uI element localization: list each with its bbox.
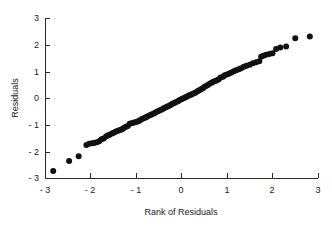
chart-svg: 3 2 1 0 - 1 - 2 - 3 - 3 - 2 - 1 0 [0, 0, 332, 228]
y-tick-label: 0 [34, 93, 39, 103]
qq-plot-chart: 3 2 1 0 - 1 - 2 - 3 - 3 - 2 - 1 0 [0, 0, 332, 228]
data-point [66, 158, 72, 164]
data-point [76, 153, 82, 159]
x-tick-label: - 2 [85, 185, 96, 195]
x-tick-label: - 1 [131, 185, 142, 195]
data-point [50, 168, 56, 174]
y-tick-label: 1 [34, 67, 39, 77]
data-point [292, 35, 298, 41]
x-tick-label: 2 [269, 185, 274, 195]
y-tick-label: - 1 [28, 120, 39, 130]
y-tick-label: 2 [34, 40, 39, 50]
x-tick-label: 0 [178, 185, 183, 195]
y-axis-title: Residuals [10, 78, 20, 118]
x-tick-label: - 3 [40, 185, 51, 195]
y-tick-label: - 2 [28, 147, 39, 157]
x-tick-label: 3 [315, 185, 320, 195]
data-point [283, 44, 289, 50]
x-tick-label: 1 [224, 185, 229, 195]
x-axis-title: Rank of Residuals [144, 207, 218, 217]
y-tick-label: 3 [34, 13, 39, 23]
data-point [307, 33, 313, 39]
y-tick-label: - 3 [28, 173, 39, 183]
data-point [277, 45, 283, 51]
